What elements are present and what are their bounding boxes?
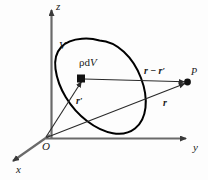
charge-element-marker	[77, 75, 85, 83]
vector-r-label: r	[163, 93, 167, 109]
axis-label-x: x	[16, 164, 21, 175]
volume-outline	[55, 39, 146, 134]
origin-label: O	[42, 141, 50, 152]
field-point-label: P	[191, 67, 197, 77]
vector-diagram-svg	[0, 0, 208, 180]
charge-element-label: ρdV	[79, 57, 97, 68]
vector-r-prime-label: r′	[76, 91, 82, 107]
vector-r-minus-r-prime	[84, 79, 185, 82]
axis-label-y: y	[193, 142, 198, 153]
field-point-marker	[184, 79, 191, 86]
prime-mark-2: ′	[163, 66, 166, 76]
minus-operator: −	[148, 65, 159, 76]
volume-symbol: V	[90, 56, 97, 68]
axis-label-z: z	[56, 1, 60, 12]
vector-r-symbol-main: r	[163, 97, 167, 108]
vector-separation-label: r − r′	[144, 61, 165, 77]
vector-r	[47, 84, 186, 138]
volume-label: V	[59, 40, 66, 51]
figure-canvas: z y x O V ρdV P r′ r − r′ r	[0, 0, 208, 180]
prime-mark: ′	[80, 96, 83, 106]
